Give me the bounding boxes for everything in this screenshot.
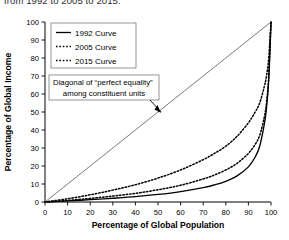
x-tick-label: 100	[265, 208, 278, 217]
legend-label-2005: 2005 Curve	[75, 43, 117, 52]
figure: from 1992 to 2005 to 2015. 0102030405060…	[0, 0, 289, 240]
x-axis-tick-labels: 0102030405060708090100	[43, 208, 277, 217]
y-axis-title: Percentage of Global Income	[3, 53, 13, 172]
legend: 1992 Curve 2005 Curve 2015 Curve	[51, 23, 136, 68]
y-tick-label: 100	[26, 18, 39, 27]
x-tick-label: 40	[131, 208, 139, 217]
y-tick-label: 40	[31, 126, 39, 135]
y-axis-tick-labels: 0102030405060708090100	[26, 18, 39, 207]
y-tick-label: 10	[31, 180, 39, 189]
x-tick-label: 90	[244, 208, 252, 217]
x-tick-label: 80	[222, 208, 230, 217]
caption-text: from 1992 to 2005 to 2015.	[4, 0, 121, 6]
x-tick-label: 10	[63, 208, 71, 217]
x-tick-label: 50	[154, 208, 162, 217]
annotation-line-1: Diagonal of “perfect equality”	[53, 78, 153, 87]
x-tick-label: 20	[86, 208, 94, 217]
y-tick-label: 60	[31, 90, 39, 99]
y-tick-label: 20	[31, 162, 39, 171]
x-tick-label: 70	[199, 208, 207, 217]
legend-label-2015: 2015 Curve	[75, 57, 117, 66]
annotation-callout: Diagonal of “perfect equality” among con…	[49, 75, 161, 113]
x-axis-ticks	[45, 202, 271, 206]
lorenz-curve-chart: 0102030405060708090100 01020304050607080…	[0, 0, 289, 240]
x-tick-label: 30	[109, 208, 117, 217]
y-tick-label: 30	[31, 144, 39, 153]
y-tick-label: 50	[31, 108, 39, 117]
x-tick-label: 60	[176, 208, 184, 217]
y-tick-label: 70	[31, 72, 39, 81]
annotation-line-2: among constituent units	[63, 89, 145, 98]
y-tick-label: 90	[31, 36, 39, 45]
y-tick-label: 0	[35, 198, 39, 207]
y-tick-label: 80	[31, 54, 39, 63]
y-axis-ticks	[42, 22, 46, 202]
legend-label-1992: 1992 Curve	[75, 29, 117, 38]
x-tick-label: 0	[43, 208, 47, 217]
caption-strip: from 1992 to 2005 to 2015.	[0, 0, 289, 9]
x-axis-title: Percentage of Global Population	[92, 220, 225, 230]
